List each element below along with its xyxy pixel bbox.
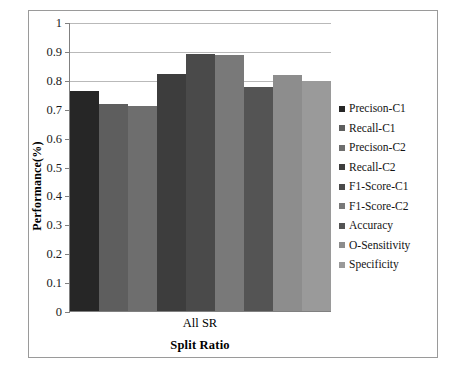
- legend-item: Specificity: [339, 255, 435, 275]
- legend-swatch-icon: [339, 262, 345, 268]
- figure-frame: Performance(%) 10.90.80.70.60.50.40.30.2…: [28, 10, 438, 358]
- legend-swatch-icon: [339, 125, 345, 131]
- legend-item: Recall-C1: [339, 119, 435, 139]
- x-axis-title: Split Ratio: [69, 338, 331, 353]
- legend-label: Recall-C1: [349, 123, 396, 135]
- legend-swatch-icon: [339, 145, 345, 151]
- legend-swatch-icon: [339, 223, 345, 229]
- bar: [244, 87, 273, 311]
- legend-label: Recall-C2: [349, 162, 396, 174]
- legend-label: Precison-C1: [349, 103, 406, 115]
- bar: [70, 91, 99, 311]
- legend-swatch-icon: [339, 164, 345, 170]
- legend-swatch-icon: [339, 106, 345, 112]
- legend-label: F1-Score-C1: [349, 181, 408, 193]
- bar: [215, 55, 244, 311]
- y-axis-tick-label: 0.9: [46, 46, 62, 59]
- y-axis-tick-label: 0.5: [46, 161, 62, 174]
- legend-label: F1-Score-C2: [349, 201, 408, 213]
- bar: [186, 54, 215, 311]
- legend-item: F1-Score-C2: [339, 197, 435, 217]
- bar: [273, 75, 302, 311]
- legend-swatch-icon: [339, 184, 345, 190]
- y-axis-tick-label: 0.2: [46, 248, 62, 261]
- legend-item: Precison-C2: [339, 138, 435, 158]
- bar: [99, 104, 128, 311]
- legend-item: Accuracy: [339, 216, 435, 236]
- y-axis-tick-label: 0.4: [46, 190, 62, 203]
- y-axis-tick-label: 0.8: [46, 75, 62, 88]
- legend-swatch-icon: [339, 203, 345, 209]
- y-axis-tick-label: 0.3: [46, 219, 62, 232]
- y-axis-title: Performance(%): [30, 141, 45, 230]
- y-axis-tick-label: 0.6: [46, 132, 62, 145]
- x-axis-category-label: All SR: [69, 316, 331, 331]
- bar: [302, 81, 331, 311]
- legend: Precison-C1Recall-C1Precison-C2Recall-C2…: [339, 99, 435, 275]
- legend-item: Precison-C1: [339, 99, 435, 119]
- legend-item: F1-Score-C1: [339, 177, 435, 197]
- y-axis-tick-label: 1: [56, 17, 62, 30]
- y-axis-tick: [65, 312, 70, 313]
- bar: [128, 106, 157, 311]
- y-axis-tick-label: 0: [56, 306, 62, 319]
- plot-area: 10.90.80.70.60.50.40.30.20.10: [69, 23, 331, 312]
- bar-group: [70, 23, 331, 311]
- bar: [157, 74, 186, 311]
- legend-label: Accuracy: [349, 220, 393, 232]
- legend-label: O-Sensitivity: [349, 240, 410, 252]
- legend-label: Specificity: [349, 259, 399, 271]
- y-axis-tick-label: 0.7: [46, 103, 62, 116]
- legend-label: Precison-C2: [349, 142, 406, 154]
- legend-item: O-Sensitivity: [339, 236, 435, 256]
- legend-swatch-icon: [339, 242, 345, 248]
- y-axis-tick-label: 0.1: [46, 277, 62, 290]
- legend-item: Recall-C2: [339, 158, 435, 178]
